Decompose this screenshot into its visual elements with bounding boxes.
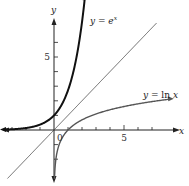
y-tick-label: 5 <box>44 52 50 62</box>
exp-left-arrow-icon <box>0 127 6 132</box>
ln-curve-label: y = ln x <box>142 90 178 100</box>
exp-label-exponent: x <box>114 14 118 21</box>
series-line-1 <box>8 23 156 178</box>
exp-label-eq: = <box>95 16 108 26</box>
exp-curve-label: y = ex <box>89 14 118 26</box>
x-tick-label: 5 <box>121 133 127 143</box>
y-axis-label: y <box>50 5 57 15</box>
axes: 55 <box>2 18 180 183</box>
y-axis-arrow-icon <box>52 18 57 25</box>
ln-label-eq: = ln <box>148 90 173 100</box>
ln-label-x: x <box>173 90 178 100</box>
x-axis-label: x <box>179 126 184 136</box>
origin-label: 0 <box>57 133 63 143</box>
function-graph: 55 x y 0 y = ex y = ln x <box>0 0 189 186</box>
labels: x y 0 y = ex y = ln x <box>50 5 184 143</box>
